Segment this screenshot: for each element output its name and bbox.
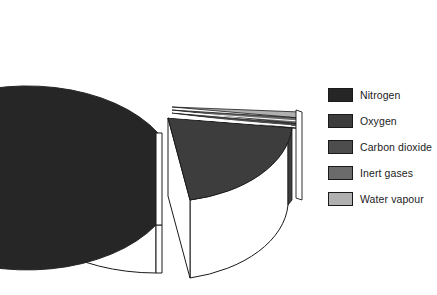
legend-label-carbon-dioxide: Carbon dioxide [360,141,432,153]
legend-label-inert-gases: Inert gases [360,167,413,179]
pie-center-notch [156,133,162,225]
legend-swatch-oxygen [328,114,353,128]
pie-side-wall-gap-right [156,225,162,273]
legend-swatch-water-vapour [328,192,353,206]
legend-swatch-nitrogen [328,88,353,102]
legend-item-carbon-dioxide[interactable]: Carbon dioxide [328,134,437,160]
pie-chart-figure: Nitrogen Oxygen Carbon dioxide Inert gas… [0,0,437,295]
legend-label-nitrogen: Nitrogen [360,89,401,101]
legend-label-oxygen: Oxygen [360,115,397,127]
chart-legend: Nitrogen Oxygen Carbon dioxide Inert gas… [328,82,437,212]
legend-label-water-vapour: Water vapour [360,193,424,205]
pie-slice-nitrogen [0,86,158,270]
legend-item-inert-gases[interactable]: Inert gases [328,160,437,186]
legend-item-nitrogen[interactable]: Nitrogen [328,82,437,108]
legend-swatch-carbon-dioxide [328,140,353,154]
legend-item-oxygen[interactable]: Oxygen [328,108,437,134]
legend-swatch-inert-gases [328,166,353,180]
legend-item-water-vapour[interactable]: Water vapour [328,186,437,212]
exploded-stack-outline [296,110,302,200]
